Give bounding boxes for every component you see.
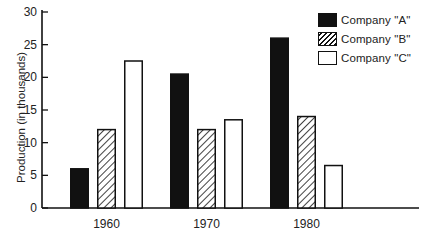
x-axis: 196019701980 [42, 208, 419, 231]
y-tick-label: 30 [24, 5, 38, 19]
bar [198, 130, 216, 208]
legend-label: Company "A" [341, 14, 410, 26]
bar [98, 130, 116, 208]
legend-label: Company "B" [341, 33, 410, 45]
legend-swatch-solid [318, 13, 337, 27]
bar [271, 38, 289, 208]
bar [298, 117, 316, 208]
bars [71, 38, 343, 208]
y-axis-label: Production (in thousands) [15, 53, 27, 183]
bar [171, 74, 189, 208]
legend: Company "A" Company "B" Company "C" [318, 10, 411, 67]
x-tick-label: 1970 [193, 217, 220, 231]
bar [225, 120, 243, 208]
y-tick-label: 0 [30, 201, 37, 215]
y-tick-label: 5 [30, 168, 37, 182]
legend-swatch-outline [318, 51, 337, 65]
legend-item-b: Company "B" [318, 29, 411, 48]
x-tick-label: 1980 [293, 217, 320, 231]
legend-item-c: Company "C" [318, 48, 411, 67]
bar [71, 169, 89, 208]
legend-label: Company "C" [341, 52, 411, 64]
x-tick-label: 1960 [93, 217, 120, 231]
y-axis: 051015202530 [24, 5, 48, 215]
y-tick-label: 25 [24, 38, 38, 52]
legend-swatch-hatched [318, 32, 337, 46]
legend-item-a: Company "A" [318, 10, 411, 29]
bar [125, 61, 143, 208]
bar [325, 166, 343, 208]
